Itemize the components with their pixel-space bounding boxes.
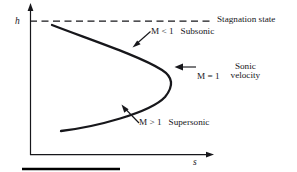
supersonic-regime-label: Supersonic — [169, 117, 210, 127]
y-axis-label: h — [15, 16, 20, 26]
sonic-leader-arrow — [175, 64, 197, 71]
x-axis — [30, 152, 214, 158]
sonic-annotation: M = 1Sonicvelocity — [197, 62, 260, 82]
fanno-line-diagram: h s Stagnation state M < 1Subsonic M = 1… — [0, 0, 297, 172]
sonic-mach-label: M = 1 — [197, 70, 220, 80]
subsonic-annotation: M < 1Subsonic — [151, 27, 214, 37]
subsonic-mach-label: M < 1 — [151, 26, 174, 36]
stagnation-state-label: Stagnation state — [217, 15, 275, 25]
diagram-canvas — [0, 0, 297, 172]
subsonic-regime-label: Subsonic — [181, 26, 215, 36]
supersonic-mach-label: M > 1 — [139, 117, 162, 127]
sonic-regime-line2: velocity — [231, 70, 261, 80]
sonic-regime-line1: Sonic — [235, 61, 256, 71]
fanno-line-curve — [52, 25, 171, 131]
y-axis — [28, 3, 34, 155]
subsonic-leader-arrow — [133, 32, 151, 48]
sonic-regime-label: Sonicvelocity — [231, 62, 261, 82]
x-axis-label: s — [193, 157, 197, 167]
supersonic-annotation: M > 1Supersonic — [139, 118, 209, 128]
